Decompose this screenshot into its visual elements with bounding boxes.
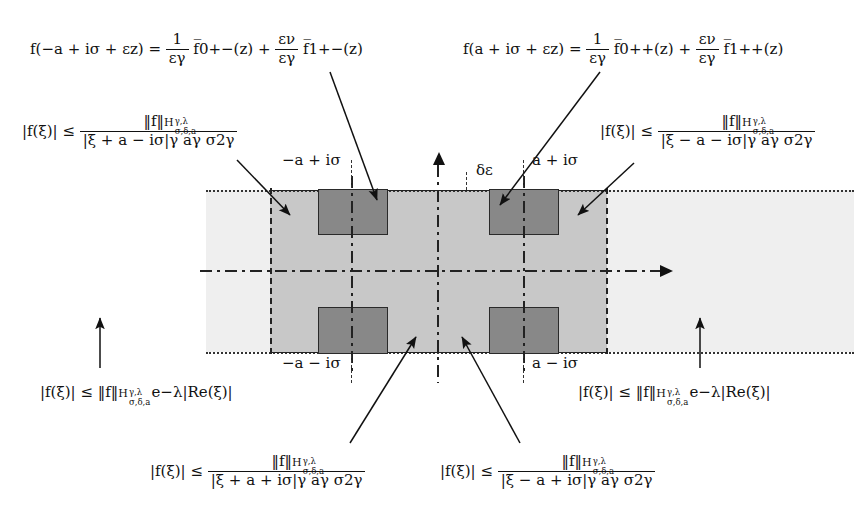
decay-bound-left: |f(ξ)| ≤ ‖f‖Hγ,λσ,δ,a e−λ|Re(ξ)| [40, 385, 233, 401]
real-axis-line [200, 270, 662, 272]
tick-top-left-point [351, 160, 352, 188]
bound-bottom-left-lhs: |f(ξ)| ≤ [150, 462, 203, 480]
bound-bottom-right-lhs: |f(ξ)| ≤ [440, 462, 493, 480]
expansion-right-plus: + [678, 40, 691, 58]
norm-space-base: H [292, 456, 302, 469]
expansion-left-term1-denominator: εγ [166, 49, 189, 67]
norm-space-superscript: γ,λ [667, 388, 680, 397]
bound-top-left: |f(ξ)| ≤ ‖f‖Hγ,λσ,δ,a |ξ + a − iσ|γ aγ σ… [22, 115, 237, 150]
expansion-right-term2-denominator: εγ [696, 49, 719, 67]
expansion-left-term2-function: f̅1+−(z) [303, 40, 363, 58]
bound-top-right-numerator: ‖f‖Hγ,λσ,δ,a [658, 114, 816, 131]
norm-symbol: ‖f‖ [562, 452, 583, 470]
expansion-left-term1-function: f̅0+−(z) [193, 40, 253, 58]
decay-bound-right: |f(ξ)| ≤ ‖f‖Hγ,λσ,δ,a e−λ|Re(ξ)| [578, 385, 771, 401]
label-top-left-point: −a + iσ [282, 153, 341, 169]
label-top-right-point: a + iσ [532, 153, 578, 169]
expansion-left-term2-fraction: εν εγ [275, 32, 298, 67]
norm-space-base: H [656, 387, 666, 400]
expansion-block-top-left [318, 189, 388, 235]
label-delta-epsilon-text: δε [476, 161, 493, 179]
expansion-left-plus: + [258, 40, 271, 58]
norm-symbol: ‖f‖ [272, 452, 293, 470]
norm-space-subscript: σ,δ,a [175, 127, 196, 136]
label-bottom-left-point: −a − iσ [282, 356, 341, 372]
tick-bottom-left-point [351, 355, 352, 383]
norm-space-superscript: γ,λ [129, 388, 142, 397]
label-bottom-left-point-text: −a − iσ [282, 354, 341, 372]
imaginary-axis-line [437, 165, 439, 383]
decay-left-norm: ‖f‖ [98, 383, 119, 401]
vertical-guide-plus-a [523, 176, 525, 372]
bound-bottom-right-denominator: |ξ − a + iσ|γ aγ σ2γ [498, 471, 656, 489]
expansion-right-term2-function: f̅1++(z) [723, 40, 783, 58]
bound-top-right-fraction: ‖f‖Hγ,λσ,δ,a |ξ − a − iσ|γ aγ σ2γ [658, 114, 816, 149]
bound-top-right: |f(ξ)| ≤ ‖f‖Hγ,λσ,δ,a |ξ − a − iσ|γ aγ σ… [600, 115, 815, 150]
norm-symbol: ‖f‖ [722, 112, 743, 130]
expansion-right-lhs: f(a + iσ + εz) = [463, 40, 581, 58]
bound-top-left-lhs: |f(ξ)| ≤ [22, 122, 75, 140]
label-delta-epsilon: δε [476, 163, 493, 179]
norm-space-superscript: γ,λ [753, 117, 766, 126]
label-bottom-right-point: a − iσ [532, 356, 578, 372]
bound-top-right-denominator: |ξ − a − iσ|γ aγ σ2γ [658, 131, 816, 149]
norm-space-base: H [118, 387, 128, 400]
expansion-left-term1-numerator: 1 [166, 32, 189, 49]
bound-bottom-left-numerator: ‖f‖Hγ,λσ,δ,a [208, 454, 366, 471]
decay-right-exponential: e−λ|Re(ξ)| [689, 383, 770, 401]
expansion-right-term1-denominator: εγ [586, 49, 609, 67]
bound-top-right-lhs: |f(ξ)| ≤ [600, 122, 653, 140]
real-axis-arrowhead-icon [660, 265, 673, 277]
bound-bottom-right: |f(ξ)| ≤ ‖f‖Hγ,λσ,δ,a |ξ − a + iσ|γ aγ σ… [440, 455, 655, 490]
decay-left-lhs: |f(ξ)| ≤ [40, 383, 93, 401]
bound-top-left-fraction: ‖f‖Hγ,λσ,δ,a |ξ + a − iσ|γ aγ σ2γ [80, 114, 238, 149]
bound-bottom-left-denominator: |ξ + a + iσ|γ aγ σ2γ [208, 471, 366, 489]
norm-space-subscript: σ,δ,a [593, 467, 614, 476]
expansion-left-term1-fraction: 1 εγ [166, 32, 189, 67]
bound-bottom-left: |f(ξ)| ≤ ‖f‖Hγ,λσ,δ,a |ξ + a + iσ|γ aγ σ… [150, 455, 365, 490]
expansion-formula-right: f(a + iσ + εz) = 1 εγ f̅0++(z) + εν εγ f… [463, 33, 783, 68]
decay-right-norm: ‖f‖ [636, 383, 657, 401]
label-top-left-point-text: −a + iσ [282, 151, 341, 169]
norm-space-superscript: γ,λ [303, 457, 316, 466]
expansion-right-term1-fraction: 1 εγ [586, 32, 609, 67]
bound-bottom-right-numerator: ‖f‖Hγ,λσ,δ,a [498, 454, 656, 471]
expansion-block-bottom-left [318, 307, 388, 354]
expansion-left-lhs: f(−a + iσ + εz) = [30, 40, 161, 58]
norm-space-subscript: σ,δ,a [667, 398, 688, 407]
norm-space-superscript: γ,λ [175, 117, 188, 126]
imaginary-axis-arrowhead-icon [433, 152, 445, 165]
norm-space-base: H [742, 116, 752, 129]
tick-top-right-point [523, 160, 524, 188]
tick-bottom-right-point [523, 355, 524, 383]
bound-bottom-left-fraction: ‖f‖Hγ,λσ,δ,a |ξ + a + iσ|γ aγ σ2γ [208, 454, 366, 489]
norm-space-subscript: σ,δ,a [753, 127, 774, 136]
norm-symbol: ‖f‖ [144, 112, 165, 130]
expansion-right-term2-numerator: εν [696, 32, 719, 49]
vertical-guide-minus-a [351, 176, 353, 372]
label-bottom-right-point-text: a − iσ [532, 354, 578, 372]
label-top-right-point-text: a + iσ [532, 151, 578, 169]
figure-canvas: f(−a + iσ + εz) = 1 εγ f̅0+−(z) + εν εγ … [0, 0, 854, 517]
norm-space-base: H [164, 116, 174, 129]
norm-space-superscript: γ,λ [593, 457, 606, 466]
bound-top-left-numerator: ‖f‖Hγ,λσ,δ,a [80, 114, 238, 131]
norm-space-subscript: σ,δ,a [129, 398, 150, 407]
expansion-right-term2-fraction: εν εγ [696, 32, 719, 67]
expansion-left-term2-denominator: εγ [275, 49, 298, 67]
expansion-right-term1-function: f̅0++(z) [614, 40, 674, 58]
expansion-left-term2-numerator: εν [275, 32, 298, 49]
decay-right-lhs: |f(ξ)| ≤ [578, 383, 631, 401]
bound-bottom-right-fraction: ‖f‖Hγ,λσ,δ,a |ξ − a + iσ|γ aγ σ2γ [498, 454, 656, 489]
delta-epsilon-gauge [466, 172, 467, 190]
expansion-formula-left: f(−a + iσ + εz) = 1 εγ f̅0+−(z) + εν εγ … [30, 33, 363, 68]
norm-space-subscript: σ,δ,a [303, 467, 324, 476]
decay-left-exponential: e−λ|Re(ξ)| [151, 383, 232, 401]
norm-space-base: H [582, 456, 592, 469]
expansion-right-term1-numerator: 1 [586, 32, 609, 49]
bound-top-left-denominator: |ξ + a − iσ|γ aγ σ2γ [80, 131, 238, 149]
